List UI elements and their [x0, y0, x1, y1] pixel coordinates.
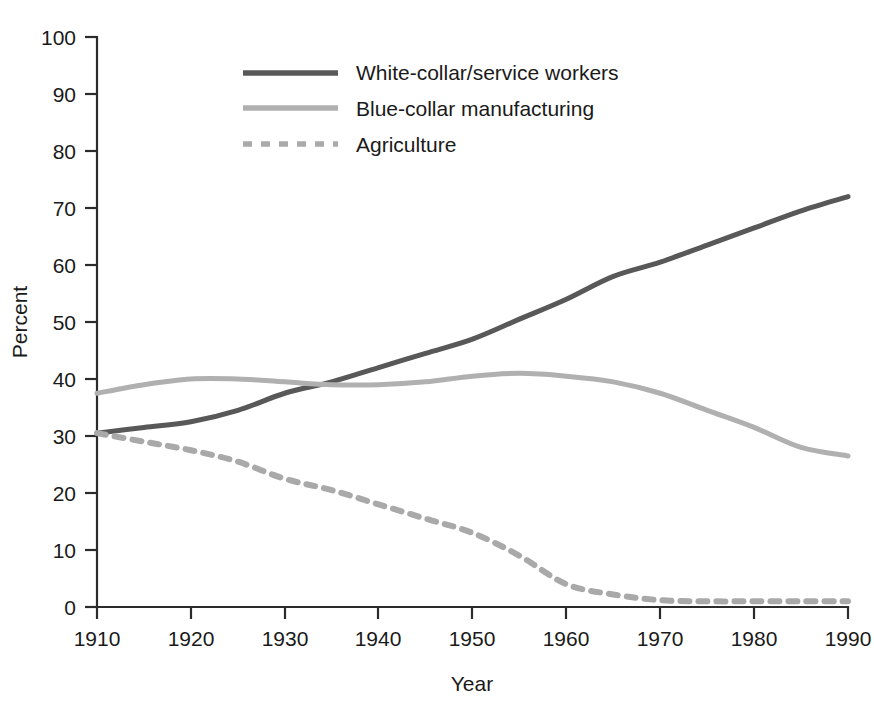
legend-item-white-collar: White-collar/service workers	[243, 61, 619, 84]
x-tick-label: 1990	[825, 627, 872, 650]
y-tick-label: 90	[53, 83, 76, 106]
series-line-agriculture	[97, 433, 848, 601]
y-tick-label: 80	[53, 140, 76, 163]
line-chart: 100 90 80 70 60 50 40 30 20 10 0 1910	[0, 0, 874, 705]
series-group	[97, 197, 848, 602]
x-tick-label: 1910	[74, 627, 121, 650]
legend-label-agriculture: Agriculture	[356, 133, 456, 156]
x-tick-label: 1970	[637, 627, 684, 650]
x-axis-tick-labels: 1910 1920 1930 1940 1950 1960 1970 1980 …	[74, 627, 872, 650]
legend-label-blue-collar: Blue-collar manufacturing	[356, 97, 594, 120]
y-tick-label: 50	[53, 311, 76, 334]
x-axis-title: Year	[451, 672, 493, 695]
series-line-white-collar	[97, 197, 848, 434]
y-tick-label: 20	[53, 482, 76, 505]
y-axis-title: Percent	[8, 286, 31, 359]
y-axis-ticks	[85, 37, 97, 607]
x-axis-ticks	[97, 607, 848, 619]
legend-item-agriculture: Agriculture	[243, 133, 456, 156]
y-tick-label: 100	[41, 26, 76, 49]
y-axis-tick-labels: 100 90 80 70 60 50 40 30 20 10 0	[41, 26, 76, 619]
x-tick-label: 1950	[449, 627, 496, 650]
legend-label-white-collar: White-collar/service workers	[356, 61, 619, 84]
series-line-blue-collar	[97, 373, 848, 456]
x-tick-label: 1960	[543, 627, 590, 650]
x-tick-label: 1920	[168, 627, 215, 650]
y-tick-label: 30	[53, 425, 76, 448]
legend-item-blue-collar: Blue-collar manufacturing	[243, 97, 594, 120]
y-tick-label: 10	[53, 539, 76, 562]
x-tick-label: 1980	[731, 627, 778, 650]
y-tick-label: 70	[53, 197, 76, 220]
y-tick-label: 40	[53, 368, 76, 391]
chart-legend: White-collar/service workers Blue-collar…	[243, 61, 619, 156]
y-tick-label: 60	[53, 254, 76, 277]
x-tick-label: 1940	[355, 627, 402, 650]
y-tick-label: 0	[64, 596, 76, 619]
x-tick-label: 1930	[262, 627, 309, 650]
chart-container: 100 90 80 70 60 50 40 30 20 10 0 1910	[0, 0, 874, 705]
